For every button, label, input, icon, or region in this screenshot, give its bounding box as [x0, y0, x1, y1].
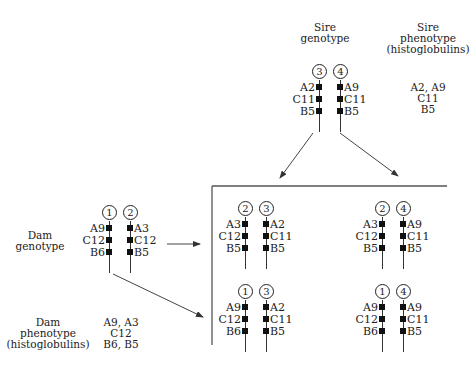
chromosome-number-circle: 3 — [312, 64, 327, 79]
label-line: genotype — [290, 33, 360, 44]
gene-locus-marker — [106, 225, 112, 231]
gene-locus-marker — [127, 249, 133, 255]
gene-locus-marker — [316, 96, 322, 102]
gene-label: A9 — [407, 302, 422, 313]
gene-locus-marker — [379, 245, 385, 251]
gene-locus-marker — [400, 328, 406, 334]
gene-locus-marker — [263, 233, 269, 239]
chromosome-number-circle: 2 — [123, 205, 138, 220]
gene-locus-marker — [337, 84, 343, 90]
chromosome-number-circle: 2 — [375, 201, 390, 216]
gene-label: B6 — [226, 326, 241, 337]
gene-label: B5 — [407, 243, 422, 254]
gene-locus-marker — [263, 328, 269, 334]
offspring-pair-2-3: 2 3 A3 C12 B5 A2 C11 B5 — [208, 201, 288, 265]
gene-label: B5 — [270, 243, 285, 254]
gene-locus-marker — [106, 249, 112, 255]
dam-phenotype-values: A9, A3 C12 B6, B5 — [96, 317, 146, 350]
gene-label: B6 — [363, 326, 378, 337]
offspring-pair-2-4: 2 4 A3 C12 B5 A9 C11 B5 — [345, 201, 425, 265]
gene-locus-marker — [379, 328, 385, 334]
gene-label: A2 — [300, 82, 315, 93]
gene-locus-marker — [127, 237, 133, 243]
gene-label: C11 — [270, 231, 292, 242]
value-line: B6, B5 — [96, 339, 146, 350]
gene-locus-marker — [106, 237, 112, 243]
gene-label: A9 — [344, 82, 359, 93]
gene-label: B5 — [407, 326, 422, 337]
gene-label: C12 — [134, 235, 156, 246]
gene-label: C12 — [219, 314, 241, 325]
chromosome-number-circle: 1 — [102, 205, 117, 220]
arrow-dam-to-bottom — [113, 274, 203, 317]
chromosome-number-circle: 4 — [396, 201, 411, 216]
gene-locus-marker — [242, 304, 248, 310]
gene-label: C11 — [344, 94, 366, 105]
gene-locus-marker — [400, 233, 406, 239]
gene-locus-marker — [400, 304, 406, 310]
gene-locus-marker — [337, 108, 343, 114]
gene-locus-marker — [263, 245, 269, 251]
gene-label: B5 — [270, 326, 285, 337]
gene-label: A9 — [363, 302, 378, 313]
gene-locus-marker — [379, 316, 385, 322]
offspring-pair-1-4: 1 4 A9 C12 B6 A9 C11 B5 — [345, 284, 425, 348]
gene-label: A3 — [363, 219, 378, 230]
gene-label: A3 — [134, 223, 149, 234]
gene-label: B5 — [226, 243, 241, 254]
chromosome-number-circle: 3 — [259, 284, 274, 299]
gene-label: A9 — [226, 302, 241, 313]
sire-genotype-label: Sire genotype — [290, 22, 360, 44]
gene-label: C11 — [293, 94, 315, 105]
gene-locus-marker — [400, 245, 406, 251]
chromosome-number-circle: 4 — [396, 284, 411, 299]
gene-label: A9 — [407, 219, 422, 230]
sire-phenotype-label: Sire phenotype (histoglobulins) — [380, 22, 476, 55]
gene-locus-marker — [263, 316, 269, 322]
gene-label: C12 — [356, 314, 378, 325]
gene-locus-marker — [242, 245, 248, 251]
dam-genotype-label: Dam genotype — [10, 230, 70, 252]
offspring-pair-1-3: 1 3 A9 C12 B6 A2 C11 B5 — [208, 284, 288, 348]
gene-locus-marker — [242, 233, 248, 239]
gene-locus-marker — [242, 328, 248, 334]
gene-locus-marker — [379, 304, 385, 310]
chromosome-number-circle: 4 — [333, 64, 348, 79]
chromosome-number-circle: 1 — [238, 284, 253, 299]
gene-label: B6 — [90, 247, 105, 258]
gene-label: B5 — [344, 106, 359, 117]
gene-locus-marker — [379, 233, 385, 239]
gene-locus-marker — [400, 221, 406, 227]
chromosome-number-circle: 2 — [238, 201, 253, 216]
gene-label: C11 — [270, 314, 292, 325]
sire-chromosome-pair: 3 4 A2 C11 B5 A9 C11 B5 — [282, 64, 362, 128]
gene-locus-marker — [316, 84, 322, 90]
arrow-sire-to-right — [340, 133, 398, 176]
gene-label: C11 — [407, 231, 429, 242]
gene-locus-marker — [263, 304, 269, 310]
gene-locus-marker — [242, 316, 248, 322]
gene-label: A2 — [270, 219, 285, 230]
gene-locus-marker — [242, 221, 248, 227]
gene-locus-marker — [263, 221, 269, 227]
gene-label: C11 — [407, 314, 429, 325]
gene-label: B5 — [363, 243, 378, 254]
gene-label: C12 — [219, 231, 241, 242]
gene-label: A9 — [90, 223, 105, 234]
gene-locus-marker — [127, 225, 133, 231]
gene-label: C12 — [356, 231, 378, 242]
gene-label: B5 — [134, 247, 149, 258]
gene-label: A3 — [226, 219, 241, 230]
gene-locus-marker — [316, 108, 322, 114]
sire-phenotype-values: A2, A9 C11 B5 — [390, 82, 466, 115]
gene-locus-marker — [400, 316, 406, 322]
chromosome-number-circle: 1 — [375, 284, 390, 299]
gene-label: B5 — [300, 106, 315, 117]
label-line: (histoglobulins) — [2, 339, 94, 350]
label-line: genotype — [10, 241, 70, 252]
value-line: B5 — [390, 104, 466, 115]
gene-label: A2 — [270, 302, 285, 313]
dam-phenotype-label: Dam phenotype (histoglobulins) — [2, 317, 94, 350]
gene-locus-marker — [337, 96, 343, 102]
dam-chromosome-pair: 1 2 A9 C12 B6 A3 C12 B5 — [72, 205, 152, 269]
